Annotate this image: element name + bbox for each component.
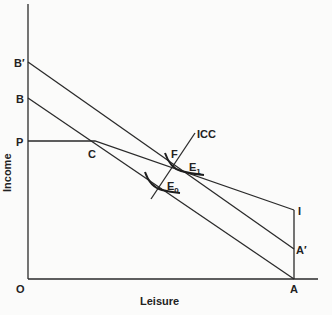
label-I: I bbox=[298, 205, 301, 217]
label-B-prime: B′ bbox=[14, 57, 25, 69]
label-P: P bbox=[16, 136, 23, 148]
label-A-prime: A′ bbox=[296, 244, 307, 256]
label-F: F bbox=[171, 148, 178, 160]
label-C: C bbox=[88, 148, 96, 160]
label-origin: O bbox=[16, 283, 25, 295]
y-axis-label: Income bbox=[1, 153, 13, 192]
x-axis-label: Leisure bbox=[140, 295, 179, 307]
label-A: A bbox=[290, 283, 298, 295]
kinked-line-P-C-I bbox=[28, 141, 294, 210]
label-icc: ICC bbox=[197, 128, 216, 140]
label-B: B bbox=[16, 93, 24, 105]
labor-leisure-diagram: B′ B P C F E1 E0 ICC I A′ A O Leisure In… bbox=[0, 0, 332, 315]
diagram-canvas: B′ B P C F E1 E0 ICC I A′ A O Leisure In… bbox=[0, 0, 332, 315]
budget-line-Bprime-Aprime bbox=[28, 62, 294, 249]
budget-line-B-A bbox=[28, 98, 294, 279]
